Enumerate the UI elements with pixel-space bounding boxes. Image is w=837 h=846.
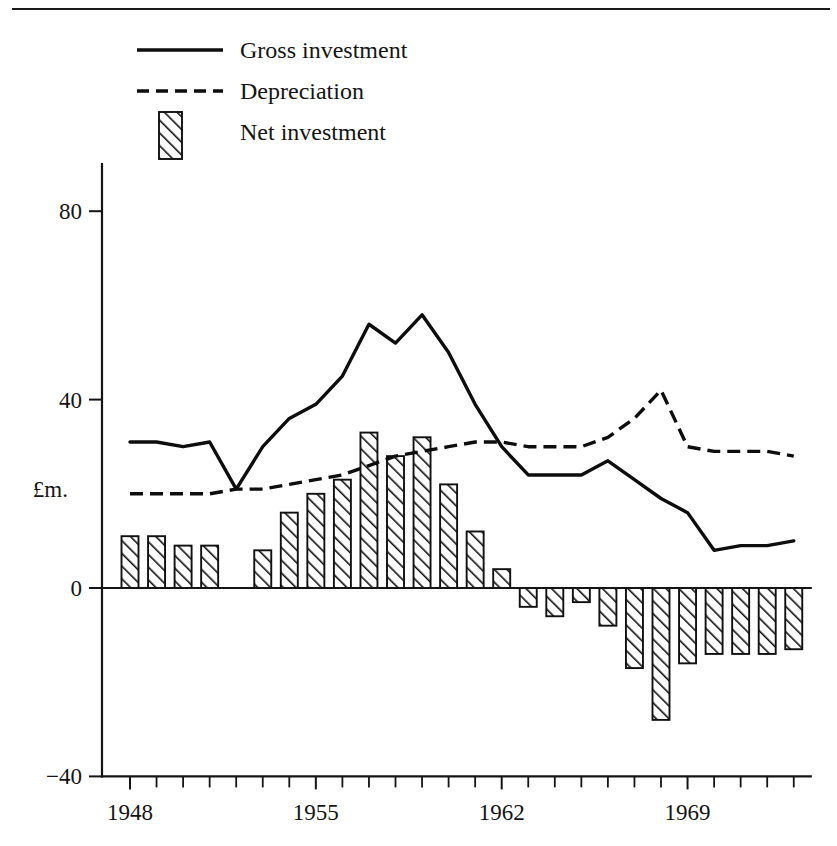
net-investment-bar-1950 — [175, 546, 192, 588]
net-investment-bar-1964 — [546, 588, 563, 616]
net-investment-bar-1970 — [706, 588, 723, 654]
axes — [89, 164, 811, 789]
x-axis-ticks — [130, 776, 794, 789]
net-investment-bar-1948 — [122, 536, 139, 588]
y-tick-label-0: 0 — [71, 576, 83, 601]
y-tick-label-80: 80 — [59, 199, 82, 224]
plot-lines — [130, 315, 794, 551]
legend-label-gross-investment: Gross investment — [240, 37, 408, 63]
net-investment-bar-1965 — [573, 588, 590, 602]
net-investment-bar-1971 — [732, 588, 749, 654]
net-investment-bar-1949 — [148, 536, 165, 588]
x-axis-tick-labels: 1948195519621969 — [107, 800, 711, 825]
net-investment-bar-1967 — [626, 588, 643, 668]
gross-investment-line — [130, 315, 794, 551]
net-investment-bar-1956 — [334, 480, 351, 588]
chart-figure: −4004080 1948195519621969 £m. Gross inve… — [0, 0, 837, 846]
y-tick-label--40: −40 — [46, 764, 82, 789]
net-investment-bar-1955 — [307, 494, 324, 588]
net-investment-bar-1957 — [360, 433, 377, 588]
legend-label-net-investment: Net investment — [240, 119, 386, 145]
net-investment-bar-1961 — [467, 531, 484, 588]
y-axis-ticks — [89, 211, 102, 776]
legend-marker-net-investment — [159, 112, 182, 159]
net-investment-bar-1968 — [653, 588, 670, 720]
plot-bars — [122, 433, 803, 720]
net-investment-bar-1973 — [785, 588, 802, 649]
net-investment-bar-1951 — [201, 546, 218, 588]
y-axis-title: £m. — [33, 477, 68, 502]
net-investment-bar-1966 — [599, 588, 616, 626]
net-investment-bar-1959 — [414, 437, 431, 588]
legend: Gross investment Depreciation Net invest… — [137, 37, 408, 159]
net-investment-bar-1954 — [281, 513, 298, 588]
net-investment-bar-1962 — [493, 569, 510, 588]
net-investment-bar-1963 — [520, 588, 537, 607]
x-tick-label-1969: 1969 — [665, 800, 711, 825]
net-investment-bar-1969 — [679, 588, 696, 663]
legend-label-depreciation: Depreciation — [240, 78, 364, 104]
net-investment-bar-1958 — [387, 456, 404, 588]
y-tick-label-40: 40 — [59, 388, 82, 413]
x-tick-label-1948: 1948 — [107, 800, 153, 825]
net-investment-bar-1953 — [254, 550, 271, 588]
x-tick-label-1955: 1955 — [293, 800, 339, 825]
investment-chart-svg: −4004080 1948195519621969 £m. Gross inve… — [0, 0, 837, 846]
net-investment-bar-1960 — [440, 484, 457, 588]
net-investment-bar-1972 — [759, 588, 776, 654]
x-tick-label-1962: 1962 — [479, 800, 525, 825]
